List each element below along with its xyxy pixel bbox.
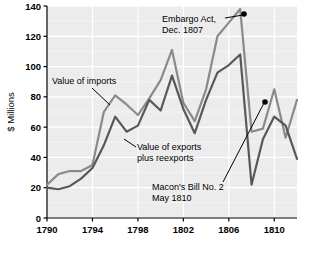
x-axis-tick-label-1810: 1810 [264,224,285,235]
annotation-label-embargo-act-line-1: Embargo Act, [162,14,216,24]
line-chart: 0204060801001201401790179417981802180618… [0,0,310,253]
y-axis-tick-label-60: 60 [30,122,41,133]
annotation-label-embargo-act-line-2: Dec. 1807 [162,25,203,35]
y-axis-tick-label-100: 100 [25,61,41,72]
annotation-label-value-of-imports-line-1: Value of imports [52,76,117,86]
y-axis-tick-label-40: 40 [30,152,41,163]
y-axis-title: $ Millions [5,92,16,132]
x-axis-tick-label-1806: 1806 [218,224,239,235]
chart-figure: 0204060801001201401790179417981802180618… [0,0,310,253]
y-axis-tick-label-0: 0 [36,213,41,224]
x-axis-tick-label-1798: 1798 [127,224,148,235]
annotation-label-value-of-exports-line-1: Value of exports [137,142,202,152]
y-axis-tick-label-120: 120 [25,31,41,42]
x-axis-tick-label-1802: 1802 [173,224,194,235]
annotation-marker-embargo-act [241,11,247,17]
x-axis-tick-label-1794: 1794 [82,224,104,235]
annotation-label-macons-bill-line-1: Macon's Bill No. 2 [152,182,224,192]
annotation-label-value-of-exports-line-2: plus reexports [137,153,194,163]
annotation-label-macons-bill-line-2: May 1810 [152,193,192,203]
y-axis-tick-label-80: 80 [30,91,41,102]
y-axis-tick-label-20: 20 [30,182,41,193]
y-axis-tick-label-140: 140 [25,1,41,12]
annotation-marker-macons-bill [262,99,268,105]
x-axis-tick-label-1790: 1790 [36,224,57,235]
